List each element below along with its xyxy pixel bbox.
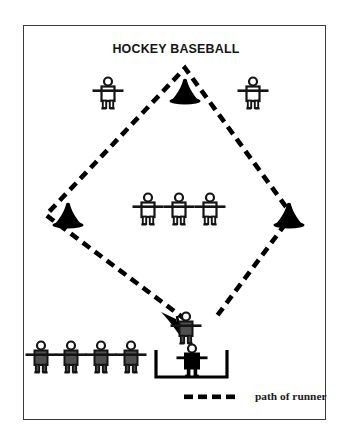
- fielder-infield-right: [195, 194, 226, 226]
- runner-waiting-2: [56, 342, 87, 374]
- hockey-baseball-diagram: HOCKEY BASEBALL: [0, 0, 352, 446]
- diagram-canvas: [0, 0, 352, 446]
- dashed-line-swatch: [184, 395, 235, 400]
- batter: [177, 345, 208, 377]
- cone-first-base: [274, 203, 305, 229]
- runner-path-arrowhead: [161, 312, 180, 333]
- runner-waiting-4: [116, 342, 147, 374]
- runner-waiting-1: [26, 342, 57, 374]
- fielder-infield-center: [164, 194, 195, 226]
- legend-label: path of runner: [255, 390, 327, 402]
- fielder-right-outfield: [238, 78, 269, 110]
- runner-waiting-3: [86, 342, 117, 374]
- fielder-left-outfield: [93, 78, 124, 110]
- cone-third-base: [53, 203, 84, 229]
- fielder-infield-left: [133, 194, 164, 226]
